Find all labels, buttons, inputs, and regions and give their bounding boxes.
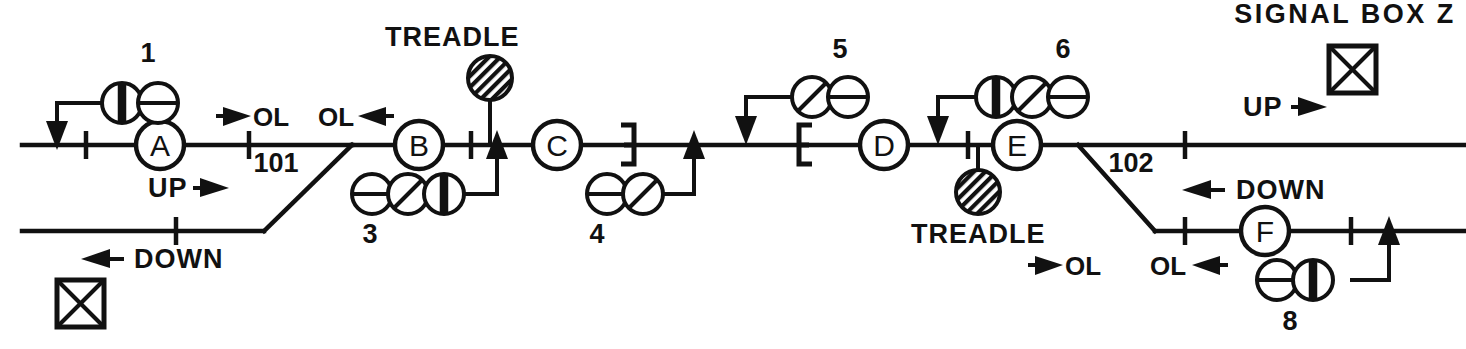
section-101-label: 101	[253, 148, 298, 178]
track-circuit-B[interactable]: B	[395, 121, 443, 169]
direction-down-right: DOWN	[1182, 175, 1325, 205]
track-circuit-F[interactable]: F	[1241, 207, 1289, 255]
direction-down-left-text: DOWN	[134, 244, 223, 274]
track-circuit-E[interactable]: E	[993, 121, 1041, 169]
track-circuit-B-label: B	[409, 129, 429, 162]
direction-down-left: DOWN	[81, 244, 223, 274]
signal-6-number: 6	[1055, 34, 1070, 64]
track-circuit-A-label: A	[150, 129, 170, 162]
signal-4[interactable]	[587, 130, 705, 214]
signal-box-z-label: SIGNAL BOX Z	[1234, 0, 1456, 29]
direction-up-left-text: UP	[148, 173, 188, 203]
overlap-label-1: OL	[216, 102, 289, 132]
signal-8-number: 8	[1282, 306, 1297, 336]
treadle-upper[interactable]	[468, 56, 512, 145]
signal-5-number: 5	[832, 34, 847, 64]
track-circuit-D-label: D	[873, 129, 895, 162]
overlap-label-1-text: OL	[253, 102, 289, 132]
signal-3-number: 3	[362, 219, 377, 249]
direction-up-right: UP	[1243, 92, 1327, 122]
direction-down-right-text: DOWN	[1236, 175, 1325, 205]
overlap-label-3: OL	[1028, 251, 1101, 281]
track-circuit-D[interactable]: D	[860, 121, 908, 169]
track-circuit-E-label: E	[1007, 129, 1027, 162]
treadle-upper-label: TREADLE	[385, 22, 520, 52]
signal-4-number: 4	[589, 219, 604, 249]
track-circuit-F-label: F	[1256, 215, 1274, 248]
track-circuit-C[interactable]: C	[533, 121, 581, 169]
section-102-label: 102	[1108, 148, 1153, 178]
overlap-label-4-text: OL	[1150, 251, 1186, 281]
track-circuit-A[interactable]: A	[136, 121, 184, 169]
overlap-label-2-text: OL	[318, 102, 354, 132]
overlap-label-3-text: OL	[1065, 251, 1101, 281]
track-circuit-C-label: C	[546, 129, 568, 162]
treadle-lower-label: TREADLE	[911, 219, 1046, 249]
direction-up-right-text: UP	[1243, 92, 1283, 122]
direction-up-left: UP	[148, 173, 229, 203]
signalling-diagram: A B C D E F	[0, 0, 1466, 349]
crossed-box-icon-left[interactable]	[57, 280, 104, 327]
overlap-label-4: OL	[1150, 251, 1228, 281]
signal-box-z-icon[interactable]	[1329, 46, 1376, 93]
diagram-canvas: A B C D E F	[0, 0, 1466, 349]
overlap-label-2: OL	[318, 102, 394, 132]
signal-1-number: 1	[140, 38, 155, 68]
